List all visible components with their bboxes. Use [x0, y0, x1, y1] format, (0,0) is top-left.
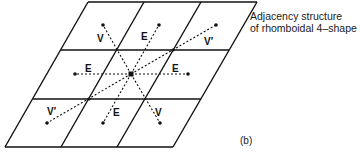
- label-bot-left: V′: [47, 106, 57, 117]
- label-mid-left: E: [85, 63, 92, 74]
- panel-label: (b): [240, 135, 252, 146]
- diagram-caption: Adjacency structure of rhomboidal 4–shap…: [250, 10, 357, 34]
- label-mid-right: E: [172, 63, 179, 74]
- label-bot-right: V: [155, 107, 162, 118]
- label-top-right: V′: [204, 36, 214, 47]
- label-bot-mid: E: [113, 107, 120, 118]
- caption-line-1: Adjacency structure: [250, 10, 357, 22]
- label-top-mid: E: [141, 31, 148, 42]
- caption-line-2: of rhomboidal 4–shape: [250, 22, 357, 34]
- label-top-left: V: [97, 33, 104, 44]
